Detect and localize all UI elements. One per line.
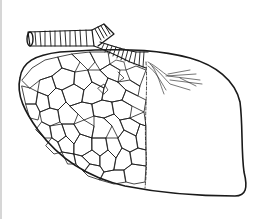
bronchus-branch-lower [94,42,148,68]
bronchiole-branches [148,62,202,94]
bronchus-main [27,30,94,46]
lung-illustration [0,0,255,219]
hilum-cells [98,60,126,94]
alveolar-lobules [22,52,146,184]
lobe-outline [19,50,246,196]
